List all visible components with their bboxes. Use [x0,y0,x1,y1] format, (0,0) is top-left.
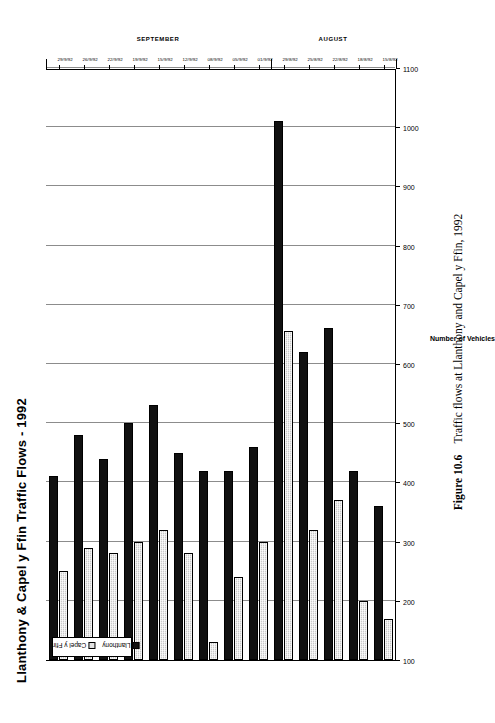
bar-group [46,69,71,660]
value-tick [396,423,400,424]
bar-llanthony [49,476,58,660]
bar-llanthony [349,471,358,660]
bar-capel-y-ffin [309,530,318,660]
bar-group [171,69,196,660]
figure-caption: Figure 10.6 Traffic flows at Llanthony a… [441,0,475,723]
category-tick [234,65,235,69]
bar-llanthony [249,447,258,660]
bar-llanthony [124,423,133,660]
category-label: 22/9/92 [107,57,122,62]
bar-llanthony [224,471,233,660]
bar-group [246,69,271,660]
group-separator [396,59,397,69]
legend-item: Capel y Ffin [52,642,96,649]
group-separator [271,59,272,69]
category-tick [359,65,360,69]
value-tick [396,601,400,602]
bar-group [96,69,121,660]
bar-capel-y-ffin [184,553,193,660]
category-tick [134,65,135,69]
plot-area [46,69,396,661]
value-tick [396,127,400,128]
value-tick [396,364,400,365]
category-tick [84,65,85,69]
bar-group [121,69,146,660]
category-label: 29/8/92 [282,57,297,62]
category-label: 18/8/92 [357,57,372,62]
category-label: 08/9/92 [207,57,222,62]
value-tick [396,186,400,187]
month-group-label: SEPTEMBER [136,36,179,42]
legend: LlanthonyCapel y Ffin [52,637,132,657]
bar-capel-y-ffin [359,601,368,660]
category-label: 25/8/92 [307,57,322,62]
legend-label: Capel y Ffin [52,642,87,649]
value-tick-label: 800 [403,244,415,251]
category-label: 05/9/92 [232,57,247,62]
bar-capel-y-ffin [159,530,168,660]
category-tick [109,65,110,69]
category-tick [159,65,160,69]
category-tick [384,65,385,69]
value-tick-label: 1100 [403,66,418,73]
value-tick-label: 500 [403,421,415,428]
chart-title: Llanthony & Capel y Ffin Traffic Flows -… [14,398,29,683]
bar-capel-y-ffin [284,331,293,660]
bar-capel-y-ffin [209,642,218,660]
bar-capel-y-ffin [334,500,343,660]
category-label: 12/9/92 [182,57,197,62]
value-tick [396,660,400,661]
value-tick-label: 200 [403,599,415,606]
value-tick-label: 700 [403,303,415,310]
bar-capel-y-ffin [259,542,268,660]
value-tick [396,246,400,247]
bar-group [371,69,396,660]
filled-black-swatch [132,642,139,649]
bar-llanthony [324,328,333,660]
value-tick [396,542,400,543]
category-tick [184,65,185,69]
bar-llanthony [74,435,83,660]
legend-items: LlanthonyCapel y Ffin [45,638,140,656]
bar-group [346,69,371,660]
category-tick [284,65,285,69]
bar-group [196,69,221,660]
legend-item: Llanthony [102,642,139,649]
category-label: 26/9/92 [82,57,97,62]
bar-llanthony [149,405,158,660]
caption-text: Traffic flows at Llanthony and Capel y F… [452,213,464,443]
value-tick-label: 400 [403,480,415,487]
category-label: 22/8/92 [332,57,347,62]
value-tick [396,305,400,306]
category-label: 29/9/92 [57,57,72,62]
category-tick [59,65,60,69]
bar-llanthony [199,471,208,660]
value-tick-label: 600 [403,362,415,369]
bar-llanthony [274,121,283,660]
bar-llanthony [174,453,183,660]
bar-group [271,69,296,660]
category-tick [334,65,335,69]
category-label: 15/9/92 [157,57,172,62]
category-tick [209,65,210,69]
bar-group [296,69,321,660]
category-tick [259,65,260,69]
caption-label: Figure 10.6 [452,454,464,509]
category-tick [309,65,310,69]
value-tick-label: 900 [403,184,415,191]
bar-group [321,69,346,660]
bar-group [71,69,96,660]
bar-llanthony [99,459,108,660]
bar-group [146,69,171,660]
value-tick [396,482,400,483]
month-group-label: AUGUST [318,36,347,42]
bar-llanthony [374,506,383,660]
value-tick-label: 1000 [403,125,419,132]
gridline [46,67,395,68]
bar-capel-y-ffin [234,577,243,660]
category-label: 19/9/92 [132,57,147,62]
light-grey-swatch [88,642,95,649]
legend-label: Llanthony [102,642,130,649]
